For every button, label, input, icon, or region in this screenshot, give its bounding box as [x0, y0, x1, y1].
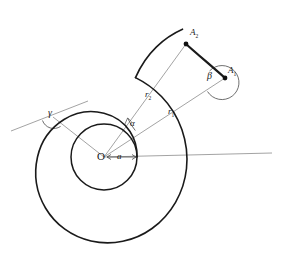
pitch-label: a: [117, 152, 122, 161]
angle-alpha-label: α: [130, 119, 135, 128]
archimedean-spiral: [36, 78, 187, 243]
origin-label: O: [97, 151, 105, 162]
radius-r1-line: [104, 78, 225, 157]
radius-r2-subscript: 2: [149, 95, 152, 101]
angle-beta-label: β: [207, 71, 212, 81]
construction-lines: [11, 44, 272, 157]
point-a1-subscript: 1: [234, 71, 237, 77]
spiral-curves: [36, 29, 225, 243]
point-a1-label: A1: [228, 66, 236, 77]
point-a2-dot: [184, 42, 189, 47]
spiral-figure: O a r1 r2 A1 A2 α β γ: [0, 0, 287, 267]
polar-axis-line: [104, 153, 272, 157]
point-a2-subscript: 2: [196, 33, 199, 39]
radius-r2-label: r2: [145, 90, 151, 101]
point-a2-label: A2: [190, 28, 198, 39]
angle-gamma-label: γ: [48, 108, 52, 118]
arc-a2-a1-highlight: [186, 44, 225, 78]
radius-r1-subscript: 1: [172, 112, 175, 118]
point-a1-dot: [223, 76, 228, 81]
radius-r1-label: r1: [168, 107, 174, 118]
spiral-diagram-canvas: [0, 0, 287, 267]
spiral-outer-branch: [136, 29, 183, 77]
